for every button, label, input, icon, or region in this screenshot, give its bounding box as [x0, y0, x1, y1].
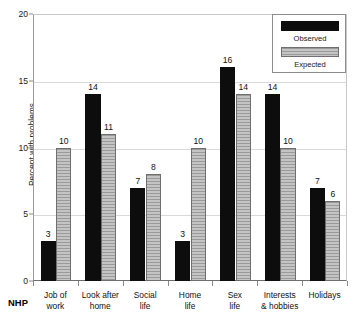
- legend-label-observed: Observed: [273, 34, 347, 43]
- bar-value-label: 6: [330, 189, 335, 199]
- y-axis-tick-label: 5: [0, 209, 28, 219]
- x-axis-category-line: life: [179, 301, 201, 312]
- x-axis-category-label: Job ofwork: [44, 290, 67, 311]
- bar-observed: [265, 94, 280, 281]
- x-axis-category-line: work: [44, 301, 67, 312]
- bar-observed: [310, 188, 325, 281]
- x-axis-category-line: Interests: [261, 290, 298, 301]
- x-axis-tick-mark: [302, 281, 303, 286]
- x-axis-category-line: life: [228, 301, 242, 312]
- y-axis-tick-label: 15: [0, 76, 28, 86]
- bar-value-label: 10: [194, 136, 204, 146]
- y-axis-tick-label: 10: [0, 143, 28, 153]
- x-axis-category-line: Sex: [228, 290, 242, 301]
- bar-expected: [56, 148, 71, 282]
- bar-expected: [280, 148, 295, 282]
- bar-value-label: 14: [268, 82, 278, 92]
- x-axis-category-label: Sexlife: [228, 290, 242, 311]
- y-axis-tick-label: 20: [0, 9, 28, 19]
- x-axis-category-label: Homelife: [179, 290, 201, 311]
- x-axis-category-label: Look afterhome: [82, 290, 119, 311]
- bar-observed: [41, 241, 56, 281]
- bar-expected: [325, 201, 340, 281]
- bar-value-label: 16: [223, 55, 233, 65]
- x-axis-category-line: Home: [179, 290, 201, 301]
- x-axis-tick-mark: [168, 281, 169, 286]
- y-axis-tick-mark: [29, 214, 33, 215]
- x-axis-category-label: Sociallife: [134, 290, 157, 311]
- bar-observed: [130, 188, 145, 281]
- x-axis-name: NHP: [8, 297, 28, 308]
- bar-observed: [85, 94, 100, 281]
- x-axis-category-label: Interests& hobbies: [261, 290, 298, 311]
- bar-value-label: 8: [151, 162, 156, 172]
- x-axis-tick-mark: [78, 281, 79, 286]
- bar-value-label: 11: [104, 122, 113, 132]
- bar-value-label: 14: [238, 82, 248, 92]
- y-axis-tick-mark: [29, 80, 33, 81]
- legend-label-expected: Expected: [273, 60, 347, 69]
- bar-value-label: 3: [180, 229, 185, 239]
- x-axis-category-line: Social: [134, 290, 157, 301]
- x-axis-category-line: Holidays: [309, 290, 341, 301]
- bar-observed: [220, 67, 235, 281]
- y-axis-tick-label: 0: [0, 276, 28, 286]
- x-axis-tick-mark: [212, 281, 213, 286]
- x-axis-tick-mark: [33, 281, 34, 286]
- x-axis-tick-mark: [257, 281, 258, 286]
- chart-legend: Observed Expected: [272, 14, 346, 73]
- x-axis-category-line: life: [134, 301, 157, 312]
- x-axis-category-label: Holidays: [309, 290, 341, 301]
- x-axis-tick-mark: [123, 281, 124, 286]
- bar-expected: [146, 174, 161, 281]
- bar-expected: [101, 134, 116, 281]
- gridline: [34, 82, 346, 83]
- bar-value-label: 7: [315, 176, 320, 186]
- bar-observed: [175, 241, 190, 281]
- bar-chart: Percent with problems 05101520 310141178…: [0, 0, 354, 322]
- x-axis-category-line: Look after: [82, 290, 119, 301]
- bar-value-label: 10: [283, 136, 293, 146]
- bar-value-label: 3: [46, 229, 51, 239]
- bar-expected: [191, 148, 206, 282]
- legend-swatch-observed: [281, 21, 339, 31]
- x-axis-tick-mark: [347, 281, 348, 286]
- x-axis-category-line: home: [82, 301, 119, 312]
- x-axis-category-line: & hobbies: [261, 301, 298, 312]
- bar-value-label: 7: [135, 176, 140, 186]
- y-axis-tick-mark: [29, 14, 33, 15]
- y-axis-tick-mark: [29, 147, 33, 148]
- bar-value-label: 14: [88, 82, 98, 92]
- x-axis-category-line: Job of: [44, 290, 67, 301]
- bar-expected: [236, 94, 251, 281]
- bar-value-label: 10: [59, 136, 69, 146]
- legend-swatch-expected: [281, 47, 339, 57]
